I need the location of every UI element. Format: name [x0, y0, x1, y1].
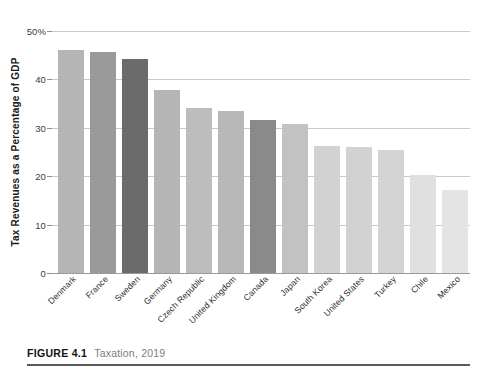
y-axis-title: Tax Revenues as a Percentage of GDP [4, 31, 26, 273]
x-axis-labels-group: DenmarkFranceSwedenGermanyCzech Republic… [52, 274, 470, 344]
y-tick-label-20: 20 [35, 171, 46, 182]
y-axis-title-text: Tax Revenues as a Percentage of GDP [10, 57, 21, 246]
bar-chile [410, 175, 436, 273]
x-axis-label-text: Mexico [435, 274, 462, 301]
bar-mexico [442, 190, 468, 273]
x-axis-label-text: Canada [241, 274, 270, 303]
bar-japan [282, 124, 308, 273]
y-tick-label-0: 0 [41, 268, 46, 279]
bar-germany [154, 90, 180, 273]
figure-title: Taxation, 2019 [94, 347, 165, 359]
bar-france [90, 52, 116, 273]
figure-container: Tax Revenues as a Percentage of GDP 50%4… [0, 0, 489, 390]
bar-czech-republic [186, 108, 212, 273]
bar-denmark [58, 50, 84, 273]
x-axis-label-text: Germany [142, 274, 175, 307]
x-axis-label-text: Japan [278, 274, 302, 298]
plot-area: 50%403020100 [52, 31, 470, 273]
caption-divider [27, 364, 470, 366]
bar-south-korea [314, 146, 340, 273]
bar-sweden [122, 59, 148, 273]
y-tick-label-50: 50% [27, 26, 46, 37]
x-axis-label-text: Denmark [46, 274, 78, 306]
y-tick-label-30: 30 [35, 122, 46, 133]
x-axis-label-text: Chile [409, 274, 430, 295]
y-tick-label-10: 10 [35, 219, 46, 230]
bars-group [52, 31, 470, 273]
x-axis-label-text: France [84, 274, 110, 300]
figure-caption: FIGURE 4.1Taxation, 2019 [27, 347, 165, 359]
x-axis-label-text: Sweden [113, 274, 142, 303]
figure-number: FIGURE 4.1 [27, 347, 87, 359]
y-tick-label-40: 40 [35, 74, 46, 85]
x-axis-label-text: Turkey [372, 274, 398, 300]
